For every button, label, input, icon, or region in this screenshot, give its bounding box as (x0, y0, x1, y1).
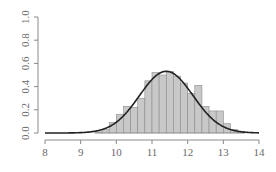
histogram-bar (123, 106, 130, 133)
histogram-bar (188, 94, 195, 133)
y-tick-label: 0.2 (19, 103, 31, 117)
y-tick-label: 0.0 (19, 126, 31, 140)
x-tick-label: 10 (111, 146, 123, 158)
y-tick-label: 0.4 (19, 79, 31, 93)
histogram-bar (173, 76, 180, 133)
x-axis: 891011121314 (42, 140, 265, 158)
histogram-bar (159, 75, 166, 133)
histogram-bar (166, 72, 173, 133)
y-tick-label: 1.0 (19, 10, 31, 24)
x-tick-label: 13 (218, 146, 230, 158)
x-tick-label: 8 (42, 146, 48, 158)
y-axis: 0.00.20.40.60.81.0 (19, 10, 38, 140)
histogram-bar (181, 83, 188, 133)
histogram-bar (145, 81, 152, 133)
histogram-bar (131, 107, 138, 133)
y-tick-label: 0.8 (19, 33, 31, 47)
histogram-bars (95, 72, 245, 133)
x-tick-label: 14 (254, 146, 266, 158)
x-tick-label: 9 (78, 146, 84, 158)
histogram-bar (195, 85, 202, 133)
histogram-bar (202, 106, 209, 133)
x-tick-label: 11 (147, 146, 158, 158)
y-tick-label: 0.6 (19, 56, 31, 70)
histogram-bar (152, 73, 159, 133)
x-tick-label: 12 (182, 146, 193, 158)
histogram-bar (138, 98, 145, 133)
histogram-bar (216, 111, 223, 133)
histogram-chart: 0.00.20.40.60.81.0 891011121314 (0, 0, 276, 172)
histogram-bar (102, 130, 109, 133)
